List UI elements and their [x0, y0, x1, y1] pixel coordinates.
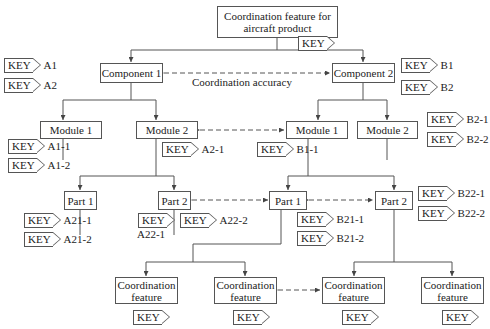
- key-tag-icon: KEY: [418, 206, 447, 221]
- key-A1-2: KEY A1-2: [8, 157, 70, 173]
- key-B2: KEY B2: [401, 79, 453, 95]
- key-tag-icon: KEY: [401, 80, 430, 95]
- coordination-feature-4: Coordination feature: [421, 277, 484, 304]
- feature-4-key: KEY: [442, 309, 480, 325]
- key-tag-icon: KEY: [4, 58, 33, 73]
- key-tag-icon: KEY: [418, 186, 447, 201]
- part-A22: Part 2: [158, 191, 191, 210]
- key-tag-icon: KEY: [162, 142, 191, 157]
- key-B1: KEY B1: [401, 57, 453, 73]
- part-A21: Part 1: [64, 191, 97, 210]
- component-1: Component 1: [100, 63, 163, 83]
- key-A22-2: KEY A22-2: [180, 212, 248, 228]
- key-A21-2: KEY A21-2: [24, 231, 92, 247]
- module-A2: Module 2: [136, 121, 198, 139]
- feature-3-key: KEY: [342, 309, 380, 325]
- key-B22-1: KEY B22-1: [418, 185, 485, 201]
- coordination-accuracy-label: Coordination accuracy: [192, 76, 292, 88]
- key-A1: KEY A1: [4, 57, 57, 73]
- key-tag-icon: KEY: [297, 231, 326, 246]
- key-A2-1: KEY A2-1: [162, 141, 224, 157]
- key-tag-icon: KEY: [4, 78, 33, 93]
- key-A1-1: KEY A1-1: [8, 138, 70, 154]
- key-tag-icon: KEY: [133, 310, 162, 325]
- key-A2: KEY A2: [4, 77, 57, 93]
- key-tag-icon: KEY: [24, 213, 53, 228]
- key-A22-1-label: A22-1: [137, 228, 165, 240]
- key-tag-icon: KEY: [297, 212, 326, 227]
- coordination-feature-3: Coordination feature: [322, 277, 385, 304]
- key-tag-icon: KEY: [257, 142, 286, 157]
- feature-1-key: KEY: [133, 309, 171, 325]
- module-B2: Module 2: [357, 121, 418, 139]
- key-B2-2: KEY B2-2: [427, 131, 489, 147]
- module-A1: Module 1: [40, 121, 102, 139]
- key-B22-2: KEY B22-2: [418, 205, 485, 221]
- key-tag-icon: KEY: [138, 213, 167, 228]
- key-tag-icon: KEY: [233, 310, 262, 325]
- root-label: Coordination feature for aircraft produc…: [218, 10, 337, 34]
- module-B1: Module 1: [286, 121, 348, 139]
- key-tag-icon: KEY: [427, 132, 456, 147]
- key-tag-icon: KEY: [401, 58, 430, 73]
- key-A21-1: KEY A21-1: [24, 212, 92, 228]
- key-tag-icon: KEY: [298, 36, 327, 51]
- component-2: Component 2: [332, 63, 395, 83]
- key-A22-1: KEY: [138, 212, 176, 228]
- feature-2-key: KEY: [233, 309, 271, 325]
- key-tag-icon: KEY: [8, 158, 37, 173]
- part-B22: Part 2: [375, 191, 413, 210]
- key-tag-icon: KEY: [427, 112, 456, 127]
- key-tag-icon: KEY: [442, 310, 471, 325]
- key-B21-1: KEY B21-1: [297, 211, 364, 227]
- key-tag-icon: KEY: [24, 232, 53, 247]
- part-B21: Part 1: [269, 191, 307, 210]
- key-tag-icon: KEY: [180, 213, 209, 228]
- coordination-feature-2: Coordination feature: [214, 277, 277, 304]
- key-B2-1: KEY B2-1: [427, 111, 489, 127]
- root-node: Coordination feature for aircraft produc…: [217, 6, 338, 38]
- key-B1-1: KEY B1-1: [257, 141, 319, 157]
- key-tag-icon: KEY: [8, 139, 37, 154]
- key-B21-2: KEY B21-2: [297, 230, 364, 246]
- root-key: KEY: [298, 35, 336, 51]
- key-tag-icon: KEY: [342, 310, 371, 325]
- coordination-feature-1: Coordination feature: [115, 277, 178, 304]
